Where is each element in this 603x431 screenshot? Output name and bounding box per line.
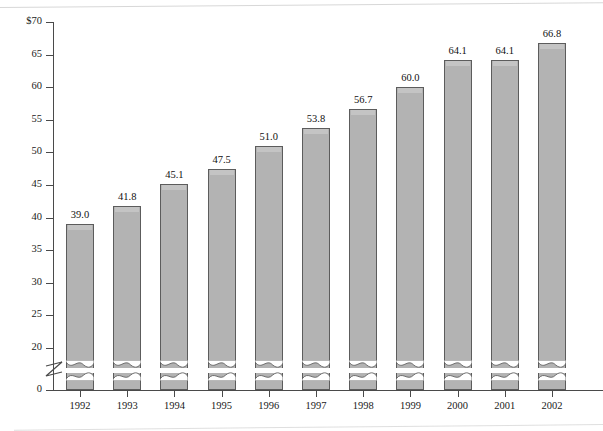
y-axis-tick-label: 20: [0, 342, 42, 353]
bar-value-label: 51.0: [260, 132, 278, 143]
y-axis-tick: [46, 22, 54, 23]
bar-break-wave-top: [349, 360, 377, 369]
bar-upper-segment: [160, 184, 188, 368]
bar-break-wave-top: [491, 360, 519, 369]
bar-upper-segment: [491, 60, 519, 368]
bar-break-wave-top: [160, 360, 188, 369]
y-axis-tick-label: 35: [0, 244, 42, 255]
bar-break-wave-top: [113, 360, 141, 369]
bar-1997: 53.8: [302, 0, 330, 390]
bar-lower-segment: [396, 373, 424, 390]
bar-break-wave-bottom: [160, 372, 188, 381]
bar-value-label: 56.7: [354, 95, 372, 106]
x-axis-tick: [222, 390, 223, 397]
bar-upper-segment: [255, 146, 283, 368]
y-axis-tick: [46, 55, 54, 56]
bar-value-label: 45.1: [165, 170, 183, 181]
x-axis-tick: [127, 390, 128, 397]
y-axis-tick-label: 45: [0, 179, 42, 190]
y-axis-tick: [46, 250, 54, 251]
bar-break-wave-top: [208, 360, 236, 369]
bar-1995: 47.5: [208, 0, 236, 390]
bar-upper-segment: [396, 87, 424, 368]
y-axis-tick-label: 65: [0, 49, 42, 60]
bar-value-label: 66.8: [543, 29, 561, 40]
bar-lower-segment: [349, 373, 377, 390]
bar-break-wave-bottom: [396, 372, 424, 381]
y-axis-line: [53, 22, 54, 391]
page-edge-bottom-line: [14, 424, 603, 431]
y-axis-break-symbol: [43, 357, 65, 385]
bar-upper-segment: [113, 206, 141, 368]
y-axis-tick: [46, 315, 54, 316]
bar-lower-segment: [208, 373, 236, 390]
y-axis-tick: [46, 120, 54, 121]
bar-value-label: 47.5: [212, 155, 230, 166]
bar-1992: 39.0: [66, 0, 94, 390]
y-axis-tick-label: 55: [0, 114, 42, 125]
y-axis-tick: [46, 283, 54, 284]
bar-break-wave-bottom: [538, 372, 566, 381]
x-axis-line: [53, 390, 603, 391]
bar-1999: 60.0: [396, 0, 424, 390]
bar-break-wave-top: [396, 360, 424, 369]
bar-upper-segment: [349, 109, 377, 368]
bar-1993: 41.8: [113, 0, 141, 390]
bar-upper-segment: [208, 169, 236, 368]
y-axis-tick-label: 25: [0, 309, 42, 320]
bar-break-wave-bottom: [444, 372, 472, 381]
x-axis-tick: [410, 390, 411, 397]
bar-upper-segment: [302, 128, 330, 368]
y-axis-tick: [46, 348, 54, 349]
x-axis-tick: [458, 390, 459, 397]
y-axis-tick-label: 30: [0, 277, 42, 288]
y-axis-tick-label: 50: [0, 146, 42, 157]
bar-value-label: 39.0: [71, 210, 89, 221]
bar-break-wave-bottom: [208, 372, 236, 381]
bar-break-wave-bottom: [255, 372, 283, 381]
bar-lower-segment: [302, 373, 330, 390]
y-axis-tick: [46, 185, 54, 186]
y-axis-tick: [46, 390, 54, 391]
bar-upper-segment: [66, 224, 94, 368]
y-axis-tick-label: 0: [0, 384, 42, 395]
bar-break-wave-top: [538, 360, 566, 369]
bar-2000: 64.1: [444, 0, 472, 390]
bar-upper-segment: [538, 43, 566, 368]
x-axis-tick: [80, 390, 81, 397]
bar-lower-segment: [255, 373, 283, 390]
bar-lower-segment: [491, 373, 519, 390]
bar-1994: 45.1: [160, 0, 188, 390]
bar-lower-segment: [160, 373, 188, 390]
bar-break-wave-top: [66, 360, 94, 369]
bar-break-wave-bottom: [66, 372, 94, 381]
y-axis-tick-label: $70: [0, 16, 42, 27]
bar-value-label: 60.0: [401, 73, 419, 84]
bar-upper-segment: [444, 60, 472, 368]
x-axis-tick-label: 2002: [522, 401, 582, 412]
x-axis-tick: [269, 390, 270, 397]
x-axis-tick: [363, 390, 364, 397]
y-axis-tick: [46, 152, 54, 153]
bar-lower-segment: [113, 373, 141, 390]
bar-2002: 66.8: [538, 0, 566, 390]
bar-value-label: 53.8: [307, 114, 325, 125]
bar-break-wave-top: [302, 360, 330, 369]
x-axis-tick: [552, 390, 553, 397]
bar-value-label: 64.1: [496, 46, 514, 57]
y-axis-tick-label: 40: [0, 212, 42, 223]
y-axis-tick: [46, 218, 54, 219]
bar-1998: 56.7: [349, 0, 377, 390]
bar-break-wave-top: [444, 360, 472, 369]
bar-lower-segment: [538, 373, 566, 390]
bar-break-wave-bottom: [349, 372, 377, 381]
bar-break-wave-bottom: [491, 372, 519, 381]
y-axis-tick-label: 60: [0, 81, 42, 92]
bar-1996: 51.0: [255, 0, 283, 390]
bar-2001: 64.1: [491, 0, 519, 390]
x-axis-tick: [316, 390, 317, 397]
bar-lower-segment: [66, 373, 94, 390]
bar-break-wave-top: [255, 360, 283, 369]
x-axis-tick: [505, 390, 506, 397]
